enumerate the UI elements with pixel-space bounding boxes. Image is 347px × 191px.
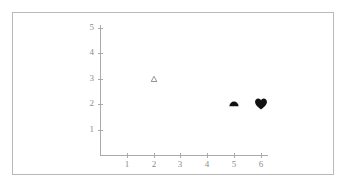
y-tick-5 [98, 28, 103, 29]
x-tick-4 [207, 153, 208, 158]
y-tick-3 [98, 79, 103, 80]
y-tick-1 [98, 130, 103, 131]
data-point-triangle-up-open [150, 75, 157, 82]
x-tick-6 [261, 153, 262, 158]
x-tick-label-2: 2 [147, 160, 161, 169]
figure-canvas: 12345 123456 [0, 0, 347, 191]
x-tick-label-3: 3 [173, 160, 187, 169]
y-tick-label-1: 1 [82, 125, 94, 134]
x-tick-2 [154, 153, 155, 158]
y-tick-label-5: 5 [82, 23, 94, 32]
data-point-semicircle-filled [229, 99, 240, 110]
x-tick-label-1: 1 [120, 160, 134, 169]
plot-area: 12345 123456 [0, 0, 347, 191]
y-tick-label-4: 4 [82, 48, 94, 57]
data-point-heart-filled [254, 97, 268, 111]
x-tick-label-6: 6 [254, 160, 268, 169]
x-tick-3 [180, 153, 181, 158]
x-tick-label-4: 4 [200, 160, 214, 169]
x-tick-1 [127, 153, 128, 158]
y-tick-label-3: 3 [82, 74, 94, 83]
y-tick-4 [98, 53, 103, 54]
y-axis-line [100, 25, 101, 156]
x-axis-line [100, 155, 268, 156]
x-tick-5 [234, 153, 235, 158]
y-tick-label-2: 2 [82, 99, 94, 108]
y-tick-2 [98, 104, 103, 105]
x-tick-label-5: 5 [227, 160, 241, 169]
